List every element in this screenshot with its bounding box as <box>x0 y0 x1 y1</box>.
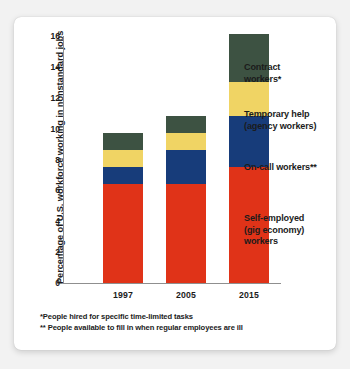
bar-segment-1997-on-call-workers <box>103 167 143 184</box>
legend-label-selfemployed: Self-employed(gig economy)workers <box>244 213 336 248</box>
legend-label-contract: Contractworkers* <box>244 62 336 85</box>
y-tick-label-8: 8 <box>30 155 60 165</box>
legend-label-contract-line-2: workers* <box>244 74 336 86</box>
legend-label-temporary-line-1: Temporary help <box>244 109 336 121</box>
legend-label-contract-line-1: Contract <box>244 62 336 74</box>
y-tick-label-0: 0 <box>30 278 60 288</box>
y-tick-label-14: 14 <box>30 62 60 72</box>
bar-group-1997: 1997 <box>103 17 143 350</box>
bar-segment-2005-contract-workers <box>166 116 206 133</box>
x-tick-label-2005: 2005 <box>156 290 216 300</box>
bar-segment-1997-self-employed-gig-economy-workers <box>103 184 143 283</box>
legend-label-selfemployed-line-1: Self-employed <box>244 213 336 225</box>
y-axis-tick-labels: 1614121086420 <box>27 17 60 350</box>
y-tick-label-6: 6 <box>30 185 60 195</box>
figure-card: Percentage of U.S. workforce working in … <box>14 17 336 350</box>
x-tick-label-1997: 1997 <box>93 290 153 300</box>
footnotes-block: *People hired for specific time-limited … <box>40 311 330 333</box>
legend-label-oncall: On-call workers** <box>244 162 336 174</box>
bar-segment-1997-contract-workers <box>103 133 143 150</box>
bar-group-2005: 2005 <box>166 17 206 350</box>
legend-label-oncall-line-1: On-call workers** <box>244 162 336 174</box>
chart-legend: Contractworkers*Temporary help(agency wo… <box>244 17 336 350</box>
legend-label-temporary: Temporary help(agency workers) <box>244 109 336 132</box>
bar-stack-2005 <box>166 17 206 350</box>
bar-segment-1997-temporary-help-agency-workers <box>103 150 143 167</box>
legend-label-selfemployed-line-3: workers <box>244 236 336 248</box>
bar-segment-2005-temporary-help-agency-workers <box>166 133 206 150</box>
bar-segment-2005-self-employed-gig-economy-workers <box>166 184 206 283</box>
bar-segment-2005-on-call-workers <box>166 150 206 184</box>
legend-label-temporary-line-2: (agency workers) <box>244 121 336 133</box>
y-tick-label-16: 16 <box>30 31 60 41</box>
legend-label-selfemployed-line-2: (gig economy) <box>244 225 336 237</box>
chart-plot-area: Percentage of U.S. workforce working in … <box>14 17 336 350</box>
footnote-double-asterisk: ** People available to fill in when regu… <box>40 322 330 333</box>
y-tick-label-2: 2 <box>30 247 60 257</box>
bar-stack-1997 <box>103 17 143 350</box>
y-tick-label-12: 12 <box>30 93 60 103</box>
y-tick-label-4: 4 <box>30 216 60 226</box>
footnote-asterisk: *People hired for specific time-limited … <box>40 311 330 322</box>
y-tick-label-10: 10 <box>30 124 60 134</box>
